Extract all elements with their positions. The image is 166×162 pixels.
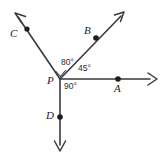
point-label-b: B (84, 24, 91, 36)
ray-pc-line (18, 17, 60, 79)
point-label-d: D (45, 109, 54, 121)
point-a-dot (115, 76, 121, 82)
point-d-dot (57, 114, 63, 120)
point-label-a: A (113, 82, 121, 94)
geometry-diagram: C B A D P 80° 45° 90° (0, 0, 166, 162)
angle-label-cpb: 80° (61, 57, 74, 67)
point-label-p: P (46, 74, 54, 86)
diagram-canvas: C B A D P 80° 45° 90° (0, 0, 166, 162)
point-label-c: C (10, 27, 18, 39)
ray-pc-arrowhead (15, 13, 26, 23)
point-c-dot (24, 26, 29, 31)
angle-label-apd: 90° (64, 81, 77, 91)
point-b-dot (93, 35, 99, 41)
angle-label-bpa: 45° (78, 63, 91, 73)
